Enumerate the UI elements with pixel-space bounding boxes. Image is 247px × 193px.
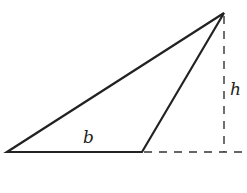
base-label: b xyxy=(83,127,94,147)
triangle xyxy=(7,13,224,152)
height-label: h xyxy=(230,79,241,99)
triangle-diagram: b h xyxy=(0,0,247,193)
